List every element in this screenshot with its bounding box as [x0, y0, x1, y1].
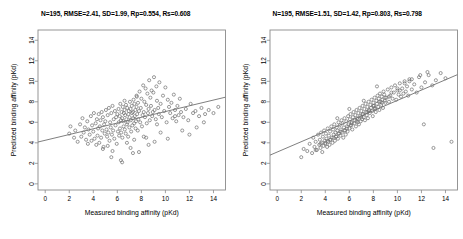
y-tick-label: 14: [260, 36, 267, 44]
data-point: [160, 116, 163, 119]
y-tick-label: 10: [260, 77, 267, 85]
data-point: [166, 98, 169, 101]
x-tick-label: 6: [116, 195, 120, 202]
data-point: [412, 83, 415, 86]
data-point: [371, 115, 374, 118]
data-point: [370, 98, 373, 101]
data-point: [305, 149, 308, 152]
data-point: [392, 0, 395, 2]
data-point: [194, 109, 197, 112]
data-point: [137, 151, 140, 154]
x-tick-label: 10: [162, 195, 170, 202]
data-point: [198, 115, 201, 118]
data-point: [85, 138, 88, 141]
y-tick-label: 6: [260, 120, 267, 124]
data-point: [431, 146, 434, 149]
data-point: [351, 111, 354, 114]
plot-svg-right: 0246810121402468101214Measured binding a…: [232, 0, 463, 239]
data-point: [362, 99, 365, 102]
data-point: [146, 92, 149, 95]
data-point: [132, 98, 135, 101]
data-point: [74, 129, 77, 132]
x-tick-label: 14: [441, 195, 449, 202]
data-point: [125, 123, 128, 126]
y-tick-label: 2: [28, 161, 35, 165]
data-point: [155, 123, 158, 126]
data-point: [113, 137, 116, 140]
data-point: [147, 107, 150, 110]
data-point: [148, 79, 151, 82]
data-point: [138, 90, 141, 93]
data-point: [106, 144, 109, 147]
data-point: [328, 130, 331, 133]
data-point: [148, 119, 151, 122]
data-point: [332, 123, 335, 126]
data-point: [318, 146, 321, 149]
data-point: [93, 137, 96, 140]
data-point: [152, 76, 155, 79]
data-point: [149, 96, 152, 99]
data-point: [142, 111, 145, 114]
data-point: [200, 106, 203, 109]
data-point: [103, 132, 106, 135]
data-point: [99, 119, 102, 122]
data-point: [101, 147, 104, 150]
data-point: [108, 139, 111, 142]
data-point: [125, 141, 128, 144]
data-point: [81, 117, 84, 120]
data-point: [146, 112, 149, 115]
data-point: [164, 86, 167, 89]
data-point: [173, 115, 176, 118]
data-point: [145, 122, 148, 125]
data-point: [207, 108, 210, 111]
data-point: [344, 133, 347, 136]
y-tick-label: 6: [28, 120, 35, 124]
data-point: [79, 123, 82, 126]
data-point: [335, 117, 338, 120]
data-point: [109, 121, 112, 124]
data-point: [147, 143, 150, 146]
data-point: [107, 131, 110, 134]
x-tick-label: 4: [92, 195, 96, 202]
data-point: [112, 129, 115, 132]
y-tick-label: 4: [28, 141, 35, 145]
data-point: [80, 135, 83, 138]
data-point: [129, 107, 132, 110]
data-point: [127, 113, 130, 116]
data-point: [140, 125, 143, 128]
data-layer: [38, 76, 226, 164]
data-point: [117, 107, 120, 110]
data-point: [115, 142, 118, 145]
data-point: [123, 128, 126, 131]
data-point: [122, 125, 125, 128]
x-tick-label: 0: [43, 195, 47, 202]
data-point: [166, 137, 169, 140]
data-point: [104, 120, 107, 123]
x-tick-label: 0: [275, 195, 279, 202]
data-point: [129, 146, 132, 149]
data-layer: [270, 0, 458, 159]
x-tick-label: 4: [323, 195, 327, 202]
data-point: [403, 82, 406, 85]
data-point: [131, 152, 134, 155]
data-point: [449, 140, 452, 143]
data-point: [374, 111, 377, 114]
data-point: [354, 108, 357, 111]
regression-line: [38, 97, 226, 142]
data-point: [204, 113, 207, 116]
data-point: [383, 101, 386, 104]
x-axis-title: Measured binding affinity (pKd): [85, 209, 179, 217]
data-point: [136, 101, 139, 104]
data-point: [336, 121, 339, 124]
data-point: [143, 100, 146, 103]
plot-svg-left: 0246810121402468101214Measured binding a…: [0, 0, 232, 239]
data-point: [379, 103, 382, 106]
data-point: [133, 138, 136, 141]
data-point: [153, 140, 156, 143]
data-point: [422, 123, 425, 126]
data-point: [155, 85, 158, 88]
data-point: [318, 138, 321, 141]
data-point: [172, 93, 175, 96]
data-point: [373, 96, 376, 99]
data-point: [139, 106, 142, 109]
